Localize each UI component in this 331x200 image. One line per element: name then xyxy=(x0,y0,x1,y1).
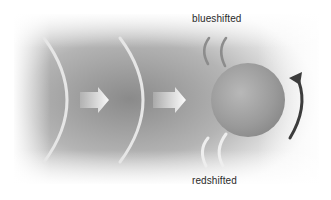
blueshifted-label: blueshifted xyxy=(192,13,241,24)
star-sphere xyxy=(211,63,285,137)
doppler-diagram: blueshifted redshifted xyxy=(0,0,331,200)
redshifted-label: redshifted xyxy=(192,175,237,186)
diagram-canvas xyxy=(0,0,331,200)
